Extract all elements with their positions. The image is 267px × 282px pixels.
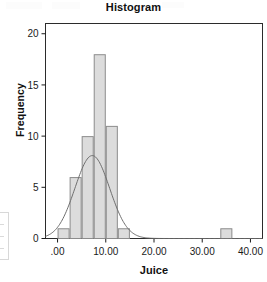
x-tick-label: 30.00 — [190, 246, 215, 257]
x-axis-ticks — [58, 239, 251, 243]
x-tick-label: 10.00 — [93, 246, 118, 257]
histogram-bar — [82, 137, 93, 239]
y-tick-label: 20 — [27, 28, 39, 39]
x-tick-label: 40.00 — [238, 246, 263, 257]
y-axis-tick-labels: 05101520 — [27, 28, 39, 244]
histogram-bar — [118, 229, 129, 239]
histogram-bar — [94, 55, 105, 239]
x-tick-label: 20.00 — [141, 246, 166, 257]
x-tick-label: .00 — [51, 246, 65, 257]
y-tick-label: 0 — [33, 233, 39, 244]
y-axis-ticks — [42, 34, 46, 239]
y-tick-label: 10 — [27, 131, 39, 142]
y-tick-label: 15 — [27, 80, 39, 91]
histogram-bar — [58, 229, 69, 239]
x-axis-tick-labels: .0010.0020.0030.0040.00 — [51, 246, 264, 257]
histogram-bar — [221, 229, 232, 239]
y-tick-label: 5 — [33, 182, 39, 193]
histogram-figure: Histogram Frequency Juice 05101520 .0010… — [0, 0, 267, 282]
plot-area: 05101520 .0010.0020.0030.0040.00 — [0, 0, 267, 282]
